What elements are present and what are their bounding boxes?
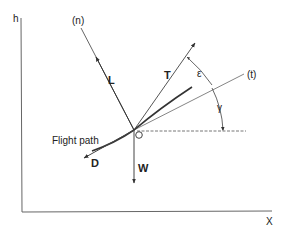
thrust-label: T [164,69,171,81]
weight-label: W [138,162,149,174]
axes [21,18,272,212]
tangent-label: (t) [247,69,256,80]
h-axis-label: h [13,13,19,24]
drag-label: D [91,157,99,169]
center-of-mass-circle [136,132,143,139]
x-axis [22,211,272,212]
gamma-arrowhead [221,127,225,131]
gamma-label: γ [217,102,222,113]
lift-arrow [96,57,134,130]
flight-mechanics-diagram: h X (n) L T (t) Flight path D W ε γ [0,0,288,232]
normal-label: (n) [72,15,84,26]
thrust-arrow [134,43,195,130]
x-axis-label: X [266,216,273,227]
lift-label: L [108,74,115,86]
h-axis [21,18,22,212]
tangent-line [134,74,244,130]
flight-path-label: Flight path [52,135,99,146]
epsilon-label: ε [197,68,202,79]
